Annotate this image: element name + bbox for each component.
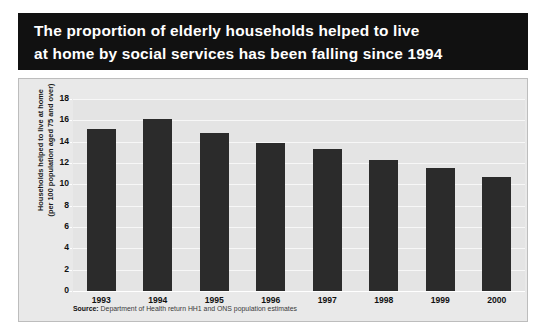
y-axis-tick-label: 16: [29, 115, 69, 124]
gridline: [73, 270, 525, 271]
chart-panel: Households helped to live at home (per 1…: [18, 78, 528, 322]
y-axis-tick-label: 12: [29, 158, 69, 167]
bar: [482, 177, 511, 291]
x-axis-tick-label: 1998: [354, 295, 414, 305]
bar: [313, 149, 342, 291]
y-axis-tick-label: 0: [29, 286, 69, 295]
gridline: [73, 120, 525, 121]
chart-figure: The proportion of elderly households hel…: [0, 0, 550, 332]
x-axis-tick-label: 1997: [297, 295, 357, 305]
y-axis-tick-label: 8: [29, 201, 69, 210]
plot-area: 024681012141618 199319941995199619971998…: [73, 99, 525, 291]
y-axis-tick-label: 6: [29, 222, 69, 231]
y-axis-tick-label: 2: [29, 265, 69, 274]
gridline: [73, 227, 525, 228]
bar: [143, 119, 172, 291]
y-axis-title-line-2: (per 100 population aged 75 and over): [46, 62, 56, 238]
y-axis-tick-label: 14: [29, 137, 69, 146]
gridline: [73, 142, 525, 143]
x-axis-tick-label: 1993: [71, 295, 131, 305]
x-axis-tick-label: 1995: [184, 295, 244, 305]
chart-title-line-1: The proportion of elderly households hel…: [34, 19, 514, 42]
y-axis-title: Households helped to live at home (per 1…: [36, 62, 66, 238]
bar: [200, 133, 229, 291]
y-axis-tick-label: 4: [29, 243, 69, 252]
x-axis-tick-label: 2000: [467, 295, 527, 305]
source-note: Source: Department of Health return HH1 …: [73, 305, 297, 312]
x-axis-tick-label: 1996: [241, 295, 301, 305]
source-text: Department of Health return HH1 and ONS …: [99, 305, 297, 312]
y-axis-tick-label: 10: [29, 179, 69, 188]
gridline: [73, 163, 525, 164]
bar: [256, 143, 285, 291]
gridline: [73, 291, 525, 292]
bar: [87, 129, 116, 291]
source-label: Source:: [73, 305, 99, 312]
gridline: [73, 206, 525, 207]
y-axis-tick-label: 18: [29, 94, 69, 103]
gridline: [73, 248, 525, 249]
x-axis-tick-label: 1994: [128, 295, 188, 305]
chart-title-banner: The proportion of elderly households hel…: [18, 13, 528, 70]
gridline: [73, 184, 525, 185]
y-axis-title-line-1: Households helped to live at home: [36, 62, 46, 238]
chart-title-line-2: at home by social services has been fall…: [34, 42, 514, 65]
bar: [369, 160, 398, 291]
bar: [426, 168, 455, 291]
gridline: [73, 99, 525, 100]
x-axis-tick-label: 1999: [410, 295, 470, 305]
